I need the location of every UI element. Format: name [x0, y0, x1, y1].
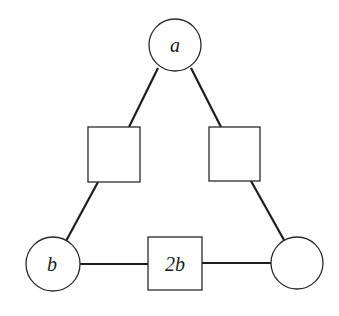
edge-top-to-left-square — [129, 68, 158, 127]
edge-right-square-to-bottom-right — [251, 181, 284, 240]
node-square-right[interactable] — [209, 127, 260, 181]
node-square-bottom[interactable]: 2b — [148, 237, 202, 290]
node-label-bottom-left: b — [47, 253, 57, 275]
node-square-left[interactable] — [88, 127, 140, 182]
node-label-top: a — [170, 34, 180, 56]
node-circle-bottom-left[interactable]: b — [26, 237, 80, 291]
triangle-diagram: a b 2b — [0, 0, 339, 316]
edge-top-to-right-square — [191, 68, 221, 127]
node-circle-bottom-right[interactable] — [271, 237, 323, 289]
node-label-bottom-square: 2b — [165, 253, 185, 275]
edge-left-square-to-bottom-left — [66, 182, 98, 241]
node-circle-top[interactable]: a — [149, 19, 201, 71]
